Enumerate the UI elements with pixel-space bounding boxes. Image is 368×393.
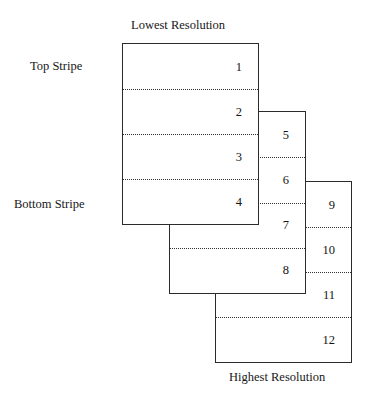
top-stripe-label: Top Stripe [30,59,82,73]
stripe-number: 8 [283,263,305,277]
stripe-number: 12 [323,333,352,347]
stripe-number: 2 [236,105,258,119]
stripe-number: 7 [283,218,305,232]
lowest-resolution-caption: Lowest Resolution [131,18,225,32]
stripe-row: 8 [170,248,305,293]
bottom-stripe-label: Bottom Stripe [14,197,85,211]
highest-resolution-caption: Highest Resolution [229,370,325,384]
stripe-number: 5 [283,128,305,142]
stripe-number: 1 [236,60,258,74]
resolution-stripe-diagram: Lowest Resolution Top Stripe Bottom Stri… [0,0,368,393]
stripe-number: 6 [283,173,305,187]
stripe-number: 10 [323,243,352,257]
stripe-number: 3 [236,150,258,164]
stripe-number: 11 [323,288,351,302]
lowest-resolution-frame: 1 2 3 4 [122,43,259,225]
stripe-row: 4 [123,179,258,224]
stripe-number: 9 [329,198,351,212]
stripe-row: 3 [123,134,258,179]
stripe-number: 4 [236,195,258,209]
stripe-row: 1 [123,44,258,89]
stripe-row: 12 [216,317,351,362]
stripe-row: 2 [123,89,258,134]
